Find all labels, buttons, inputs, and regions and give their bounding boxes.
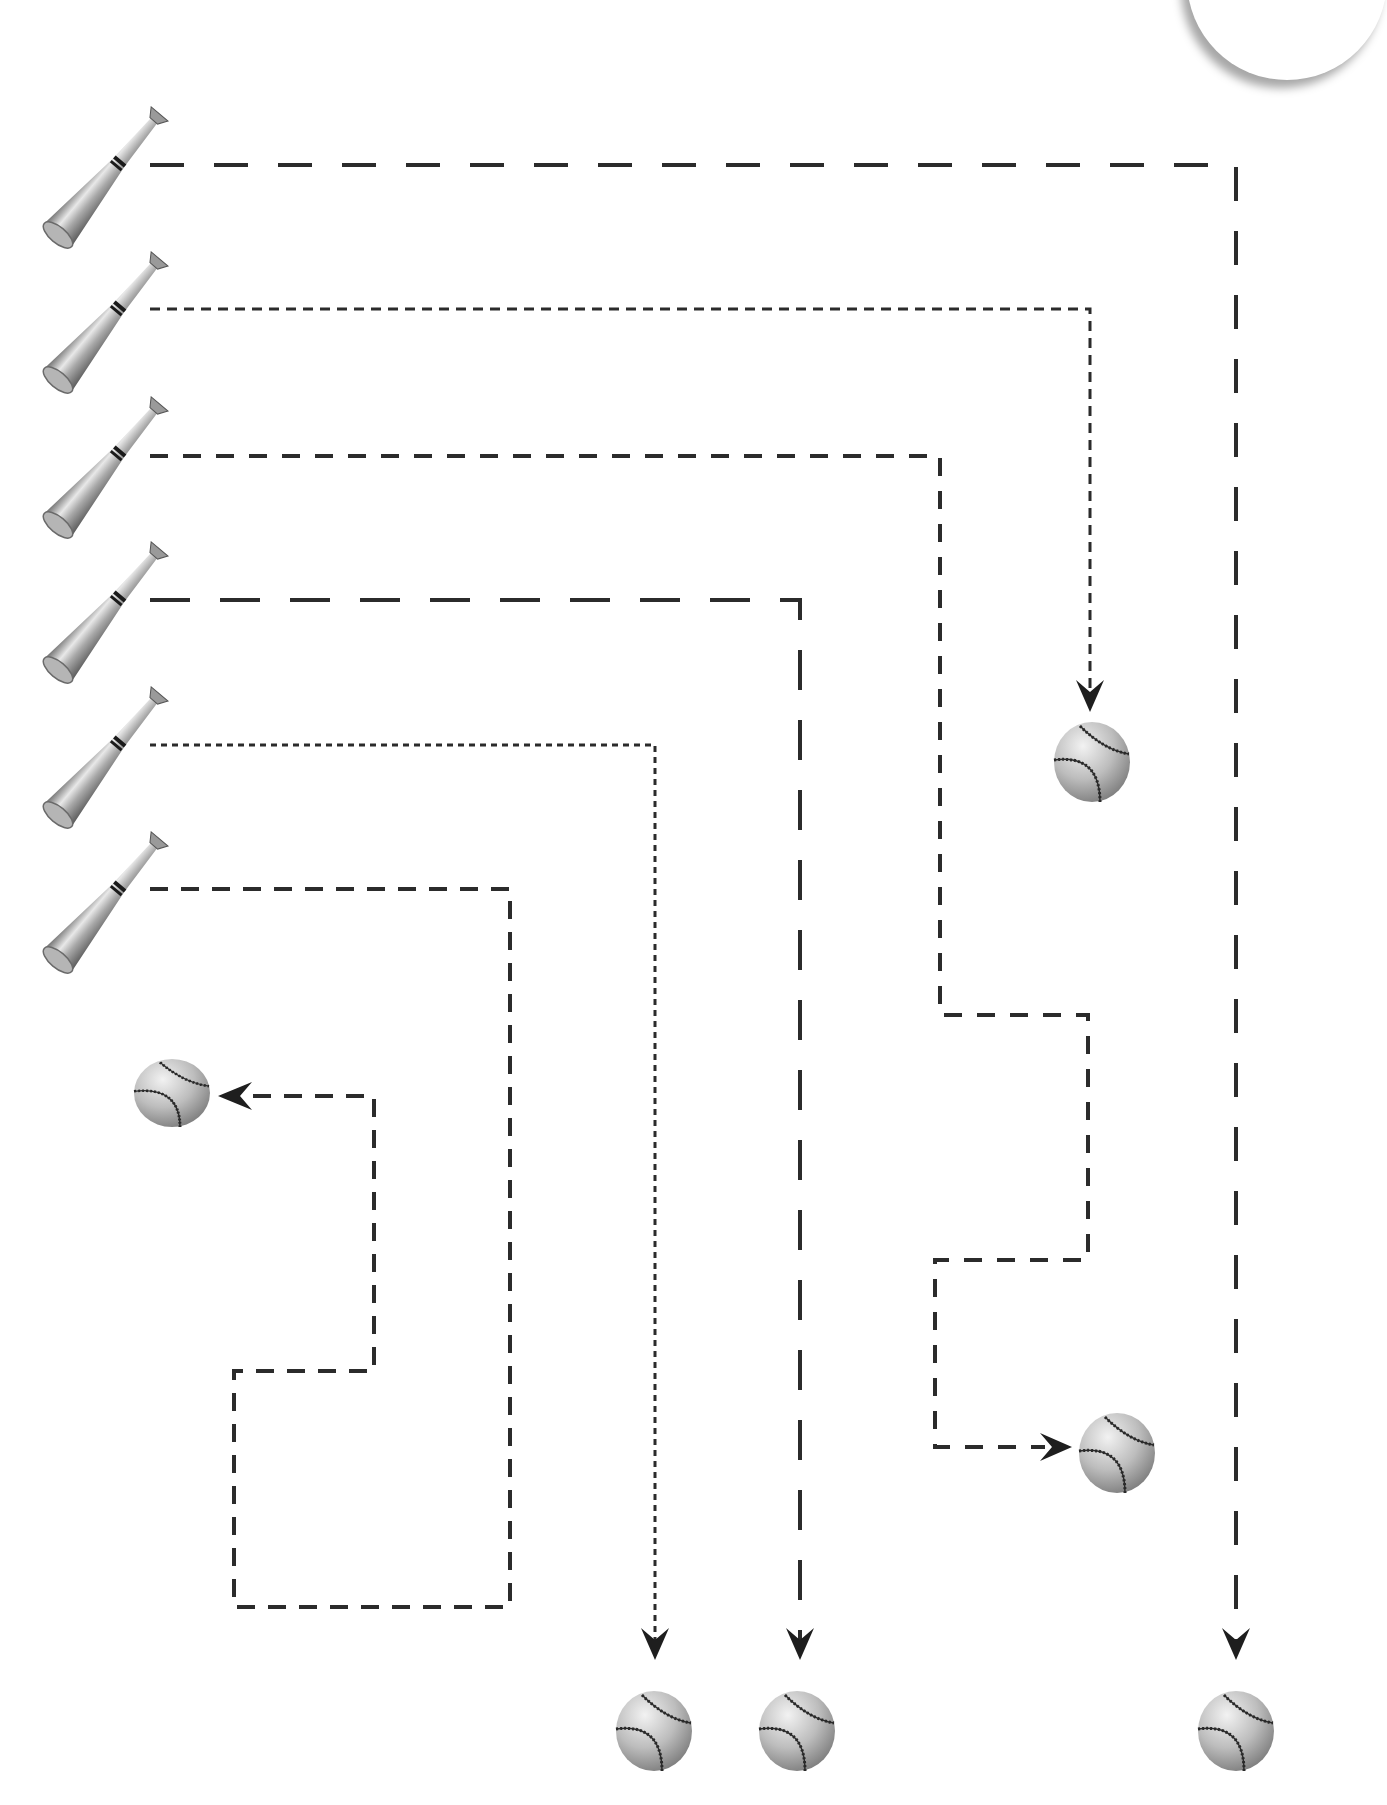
- baseball-icon: [759, 1691, 835, 1771]
- baseball-icon: [1054, 722, 1130, 802]
- balls: [134, 722, 1274, 1771]
- arrow-left-icon: [218, 1082, 252, 1110]
- bats-column: [39, 102, 173, 977]
- bat-icon: [39, 827, 173, 977]
- arrow-down-icon: [1222, 1628, 1250, 1660]
- trace-path-4[interactable]: [150, 600, 800, 1640]
- baseball-icon: [1079, 1413, 1155, 1493]
- baseball-icon: [134, 1059, 210, 1127]
- trace-path-6[interactable]: [150, 889, 510, 1607]
- bat-icon: [39, 537, 173, 687]
- bat-icon: [39, 247, 173, 397]
- trace-path-2[interactable]: [150, 309, 1090, 690]
- trace-path-5[interactable]: [150, 745, 655, 1640]
- trace-path-1[interactable]: [150, 165, 1236, 1640]
- arrow-down-icon: [641, 1628, 669, 1660]
- bat-icon: [39, 392, 173, 542]
- baseball-icon: [1198, 1691, 1274, 1771]
- bat-icon: [39, 682, 173, 832]
- baseball-icon: [616, 1691, 692, 1771]
- bat-icon: [39, 102, 173, 252]
- trace-path-3[interactable]: [150, 456, 1088, 1447]
